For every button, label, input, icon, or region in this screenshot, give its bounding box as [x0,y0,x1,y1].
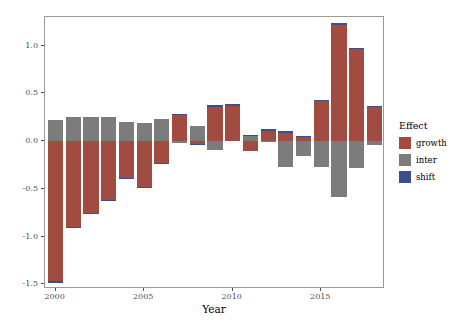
bar-segment-inter[interactable] [207,141,222,150]
bar-segment-inter[interactable] [190,126,205,141]
bar-segment-growth[interactable] [243,141,258,151]
bar-segment-inter[interactable] [296,141,311,156]
bar-segment-growth[interactable] [137,141,152,187]
bar-group[interactable] [349,17,364,287]
bar-segment-inter[interactable] [278,141,293,167]
x-tick-label: 2005 [123,292,163,301]
legend: Effect growthintershift [399,120,463,186]
y-tick-label: 0.0 [2,136,38,145]
bar-segment-shift[interactable] [137,187,152,188]
bar-segment-shift[interactable] [349,48,364,49]
bar-group[interactable] [190,17,205,287]
bar-segment-inter[interactable] [83,117,98,141]
legend-label-shift: shift [416,172,435,182]
bar-segment-shift[interactable] [66,227,81,228]
bar-segment-shift[interactable] [172,114,187,115]
bar-segment-shift[interactable] [154,163,169,164]
bar-segment-growth[interactable] [261,130,276,141]
bar-segment-shift[interactable] [278,131,293,132]
legend-items: growthintershift [399,135,463,184]
bar-segment-growth[interactable] [367,106,382,141]
legend-label-inter: inter [416,155,437,165]
legend-swatch-inter [399,154,411,166]
bar-segment-growth[interactable] [66,141,81,227]
legend-swatch-growth [399,137,411,149]
bar-segment-growth[interactable] [314,100,329,141]
bar-segment-shift[interactable] [48,281,63,282]
legend-label-growth: growth [416,138,447,148]
bar-group[interactable] [278,17,293,287]
bar-segment-growth[interactable] [48,141,63,281]
legend-item-growth[interactable]: growth [399,135,463,150]
x-tick-mark [320,288,321,291]
bar-segment-inter[interactable] [349,141,364,168]
x-tick-mark [143,288,144,291]
bar-segment-shift[interactable] [314,100,329,101]
bar-segment-growth[interactable] [207,106,222,141]
legend-swatch-shift [399,171,411,183]
bar-segment-inter[interactable] [66,117,81,141]
y-tick-label: -1.5 [2,279,38,288]
legend-title: Effect [399,120,463,131]
bar-group[interactable] [137,17,152,287]
bar-group[interactable] [154,17,169,287]
bar-segment-inter[interactable] [367,141,382,145]
y-tick-label: 1.0 [2,40,38,49]
bar-segment-inter[interactable] [331,141,346,197]
bar-segment-growth[interactable] [278,132,293,142]
legend-item-shift[interactable]: shift [399,169,463,184]
bar-group[interactable] [296,17,311,287]
y-tick-label: -1.0 [2,231,38,240]
bar-segment-shift[interactable] [207,105,222,106]
bar-segment-growth[interactable] [101,141,116,200]
bar-group[interactable] [314,17,329,287]
x-tick-label: 2010 [212,292,252,301]
bar-segment-shift[interactable] [190,144,205,145]
x-tick-mark [232,288,233,291]
bar-segment-growth[interactable] [83,141,98,213]
bar-group[interactable] [119,17,134,287]
bar-segment-inter[interactable] [172,141,187,143]
bar-segment-inter[interactable] [48,120,63,141]
y-tick-label: -0.5 [2,183,38,192]
bar-segment-shift[interactable] [331,23,346,24]
bar-segment-shift[interactable] [243,135,258,136]
x-axis-title: Year [44,303,384,315]
legend-item-inter[interactable]: inter [399,152,463,167]
bar-group[interactable] [48,17,63,287]
bar-segment-growth[interactable] [172,114,187,141]
chart-root: Beta contribution 1.00.50.0-0.5-1.0-1.5 … [0,0,465,327]
bar-segment-growth[interactable] [154,141,169,163]
bar-segment-growth[interactable] [331,24,346,141]
bar-segment-growth[interactable] [225,106,240,141]
x-tick-label: 2015 [300,292,340,301]
bar-segment-shift[interactable] [83,213,98,214]
bar-group[interactable] [367,17,382,287]
bar-segment-growth[interactable] [349,48,364,141]
bar-segment-shift[interactable] [101,200,116,201]
x-tick-mark [55,288,56,291]
bar-group[interactable] [101,17,116,287]
bar-group[interactable] [243,17,258,287]
bar-segment-shift[interactable] [261,129,276,130]
bar-group[interactable] [225,17,240,287]
bar-segment-inter[interactable] [119,122,134,141]
bar-segment-inter[interactable] [154,119,169,141]
bar-segment-inter[interactable] [137,123,152,141]
bar-segment-shift[interactable] [367,106,382,107]
bar-segment-inter[interactable] [314,141,329,167]
bar-segment-shift[interactable] [119,178,134,179]
bar-group[interactable] [207,17,222,287]
bar-group[interactable] [66,17,81,287]
bar-group[interactable] [261,17,276,287]
bar-segment-inter[interactable] [261,141,276,142]
plot-panel [44,16,384,288]
bar-group[interactable] [172,17,187,287]
bar-group[interactable] [83,17,98,287]
bar-segment-shift[interactable] [225,104,240,105]
bar-group[interactable] [331,17,346,287]
bar-segment-shift[interactable] [296,136,311,137]
bar-segment-growth[interactable] [119,141,134,178]
x-tick-label: 2000 [35,292,75,301]
bar-segment-inter[interactable] [101,117,116,141]
